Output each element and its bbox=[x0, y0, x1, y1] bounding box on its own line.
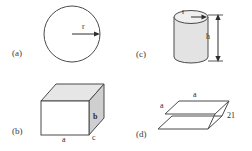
radius-arrow-head-icon bbox=[94, 31, 100, 36]
cuboid-length-label: a bbox=[62, 136, 66, 144]
panel-label-b: (b) bbox=[12, 127, 23, 136]
bottom-plate bbox=[158, 116, 222, 129]
panel-label-c: (c) bbox=[136, 50, 146, 59]
panel-label-a: (a) bbox=[12, 49, 22, 58]
panel-label-d: (d) bbox=[136, 130, 147, 139]
panel-c-cylinder: r h bbox=[126, 0, 252, 72]
cylinder-height-label: h bbox=[206, 33, 210, 41]
panel-a-circle: r bbox=[0, 0, 126, 72]
plate-left-side-label: a bbox=[160, 102, 164, 110]
plate-separation-label: 21 bbox=[227, 112, 235, 120]
circle-radius-label: r bbox=[82, 23, 85, 31]
panel-d-plates: a a 21 bbox=[126, 72, 252, 151]
cylinder-diagram bbox=[126, 0, 252, 72]
plate-top-side-label: a bbox=[193, 91, 197, 99]
circle-diagram bbox=[0, 0, 126, 72]
cuboid-front-face bbox=[41, 101, 89, 135]
cylinder-radius-label: r bbox=[182, 8, 185, 16]
top-plate bbox=[165, 101, 229, 114]
cuboid-depth-label: c bbox=[92, 134, 96, 142]
figure-canvas: r (a) a b c (b) bbox=[0, 0, 252, 151]
panel-b-box: a b c bbox=[0, 72, 126, 151]
cuboid-height-label: b bbox=[93, 113, 97, 121]
